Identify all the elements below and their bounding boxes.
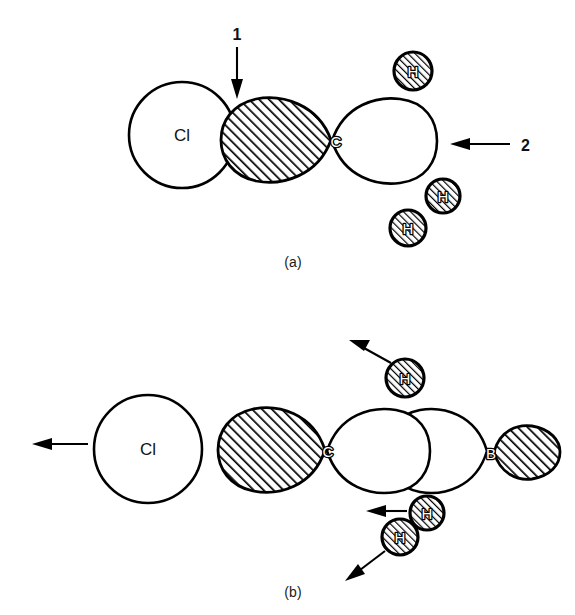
figure-root: Cl C H H H 1 [0, 0, 575, 615]
carbon-right-lobe-b [327, 409, 430, 493]
atom-label-cl-b: Cl [140, 440, 156, 459]
panel-caption-a: (a) [284, 254, 302, 270]
hydrogen-top-b: H [386, 359, 424, 397]
annotation-arrow-2: 2 [450, 137, 530, 154]
arrow-head-1 [231, 79, 243, 99]
arrow-head-2 [450, 138, 470, 150]
atom-label-c-a: C [331, 133, 342, 150]
boron-right-lobe-b [494, 426, 560, 480]
hydrogen-low-a: H [390, 210, 426, 246]
atom-label-h-b-top: H [400, 370, 411, 387]
annotation-label-2: 2 [521, 137, 530, 154]
panel-b: Cl C B H H H [32, 340, 560, 581]
atom-label-h-b-low: H [395, 529, 406, 546]
carbon-right-lobe-a [332, 98, 437, 183]
atom-label-b-b: B [486, 445, 496, 462]
hydrogen-top-a: H [394, 52, 432, 90]
hydrogen-low-b: H [382, 519, 418, 555]
atom-label-h-a-mid: H [438, 188, 449, 205]
annotation-arrow-1: 1 [231, 26, 243, 99]
motion-arrow-chlorine-b [32, 438, 88, 450]
orbital-diagram-svg: Cl C H H H 1 [0, 0, 575, 615]
atom-label-h-a-low: H [403, 220, 414, 237]
motion-arrow-h-top-b [349, 340, 391, 363]
carbon-left-lobe-a [221, 98, 331, 182]
carbon-left-lobe-b [218, 408, 325, 493]
motion-arrow-h-low-b [345, 551, 385, 581]
atom-label-cl-a: Cl [174, 126, 190, 145]
panel-caption-b: (b) [284, 584, 302, 600]
arrow-head-h-low-b [345, 564, 365, 581]
arrow-head-h-mid-b [366, 505, 386, 517]
annotation-label-1: 1 [233, 26, 242, 43]
panel-a: Cl C H H H 1 [129, 26, 530, 246]
hydrogen-mid-a: H [426, 179, 460, 213]
atom-label-c-b: C [323, 443, 334, 460]
arrow-head-chlorine-b [32, 438, 52, 450]
atom-label-h-a-top: H [408, 63, 419, 80]
atom-label-h-b-mid: H [422, 505, 433, 522]
motion-arrow-h-mid-b [366, 505, 407, 517]
